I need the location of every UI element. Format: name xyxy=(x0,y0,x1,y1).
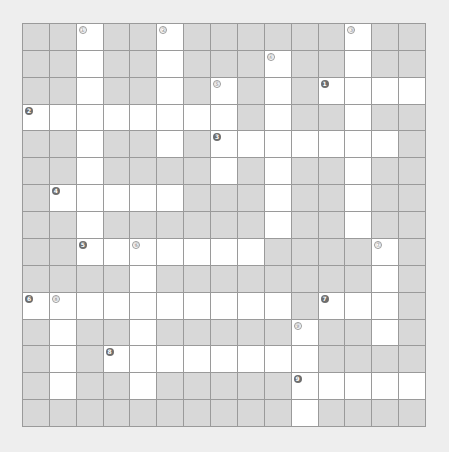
open-cell[interactable] xyxy=(130,373,156,399)
open-cell[interactable] xyxy=(77,158,103,184)
open-cell[interactable]: 5 xyxy=(77,239,103,265)
open-cell[interactable] xyxy=(372,266,398,292)
open-cell[interactable] xyxy=(50,346,76,372)
open-cell[interactable] xyxy=(50,373,76,399)
open-cell[interactable] xyxy=(184,346,210,372)
blocked-cell xyxy=(184,212,210,238)
open-cell[interactable] xyxy=(345,158,371,184)
blocked-cell xyxy=(104,400,130,426)
open-cell[interactable]: 8 xyxy=(104,346,130,372)
open-cell[interactable]: ① xyxy=(77,24,103,50)
blocked-cell xyxy=(184,78,210,104)
blocked-cell xyxy=(265,373,291,399)
open-cell[interactable] xyxy=(238,239,264,265)
open-cell[interactable] xyxy=(130,346,156,372)
open-cell[interactable] xyxy=(345,185,371,211)
open-cell[interactable] xyxy=(104,185,130,211)
open-cell[interactable] xyxy=(265,185,291,211)
open-cell[interactable] xyxy=(265,78,291,104)
open-cell[interactable] xyxy=(345,131,371,157)
open-cell[interactable]: 9 xyxy=(292,373,318,399)
open-cell[interactable] xyxy=(50,105,76,131)
open-cell[interactable] xyxy=(399,78,425,104)
open-cell[interactable] xyxy=(265,105,291,131)
open-cell[interactable] xyxy=(211,293,237,319)
open-cell[interactable]: ⑤ xyxy=(211,78,237,104)
open-cell[interactable] xyxy=(319,373,345,399)
open-cell[interactable] xyxy=(157,105,183,131)
open-cell[interactable] xyxy=(211,158,237,184)
open-cell[interactable] xyxy=(372,373,398,399)
open-cell[interactable]: ③ xyxy=(345,24,371,50)
open-cell[interactable] xyxy=(77,293,103,319)
open-cell[interactable] xyxy=(345,78,371,104)
open-cell[interactable] xyxy=(238,293,264,319)
open-cell[interactable]: ② xyxy=(157,24,183,50)
open-cell[interactable] xyxy=(238,131,264,157)
open-cell[interactable] xyxy=(157,293,183,319)
open-cell[interactable] xyxy=(77,185,103,211)
open-cell[interactable]: ⑨ xyxy=(292,320,318,346)
open-cell[interactable] xyxy=(157,131,183,157)
open-cell[interactable] xyxy=(319,131,345,157)
open-cell[interactable] xyxy=(211,105,237,131)
blocked-cell xyxy=(211,320,237,346)
open-cell[interactable] xyxy=(345,373,371,399)
open-cell[interactable] xyxy=(184,293,210,319)
open-cell[interactable] xyxy=(265,346,291,372)
open-cell[interactable] xyxy=(372,78,398,104)
open-cell[interactable] xyxy=(265,212,291,238)
open-cell[interactable]: ⑧ xyxy=(50,293,76,319)
open-cell[interactable] xyxy=(77,131,103,157)
open-cell[interactable] xyxy=(77,78,103,104)
open-cell[interactable] xyxy=(157,78,183,104)
open-cell[interactable] xyxy=(77,51,103,77)
open-cell[interactable] xyxy=(130,105,156,131)
open-cell[interactable] xyxy=(157,185,183,211)
open-cell[interactable] xyxy=(211,346,237,372)
open-cell[interactable] xyxy=(292,346,318,372)
open-cell[interactable] xyxy=(345,212,371,238)
open-cell[interactable] xyxy=(345,105,371,131)
open-cell[interactable] xyxy=(157,346,183,372)
open-cell[interactable]: 6 xyxy=(23,293,49,319)
open-cell[interactable] xyxy=(157,239,183,265)
open-cell[interactable]: ④ xyxy=(265,51,291,77)
open-cell[interactable] xyxy=(104,239,130,265)
open-cell[interactable] xyxy=(292,131,318,157)
open-cell[interactable] xyxy=(104,293,130,319)
open-cell[interactable] xyxy=(238,346,264,372)
open-cell[interactable] xyxy=(345,51,371,77)
open-cell[interactable] xyxy=(77,105,103,131)
open-cell[interactable]: 1 xyxy=(319,78,345,104)
blocked-cell xyxy=(104,266,130,292)
open-cell[interactable] xyxy=(292,400,318,426)
open-cell[interactable] xyxy=(345,293,371,319)
open-cell[interactable] xyxy=(130,266,156,292)
blocked-cell xyxy=(77,320,103,346)
open-cell[interactable]: 2 xyxy=(23,105,49,131)
open-cell[interactable] xyxy=(372,293,398,319)
open-cell[interactable]: ⑥ xyxy=(130,239,156,265)
open-cell[interactable] xyxy=(265,293,291,319)
blocked-cell xyxy=(211,400,237,426)
open-cell[interactable] xyxy=(211,239,237,265)
open-cell[interactable] xyxy=(157,51,183,77)
open-cell[interactable] xyxy=(184,239,210,265)
open-cell[interactable] xyxy=(265,158,291,184)
open-cell[interactable] xyxy=(265,131,291,157)
open-cell[interactable] xyxy=(372,131,398,157)
open-cell[interactable] xyxy=(399,373,425,399)
open-cell[interactable] xyxy=(50,320,76,346)
open-cell[interactable] xyxy=(130,293,156,319)
open-cell[interactable]: ⑦ xyxy=(372,239,398,265)
open-cell[interactable] xyxy=(184,105,210,131)
open-cell[interactable]: 7 xyxy=(319,293,345,319)
open-cell[interactable] xyxy=(77,212,103,238)
open-cell[interactable] xyxy=(104,105,130,131)
open-cell[interactable] xyxy=(130,185,156,211)
open-cell[interactable]: 4 xyxy=(50,185,76,211)
open-cell[interactable] xyxy=(130,320,156,346)
open-cell[interactable] xyxy=(372,320,398,346)
open-cell[interactable]: 3 xyxy=(211,131,237,157)
